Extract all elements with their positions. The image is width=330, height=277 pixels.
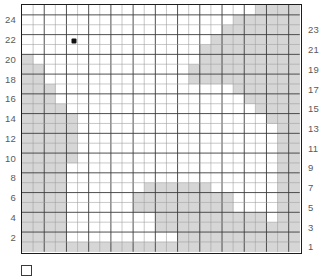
row-label-right-7: 7 <box>308 183 313 193</box>
row-label-right-19: 19 <box>308 65 319 75</box>
row-label-left-16: 16 <box>5 94 16 104</box>
row-labels-left-axis: 24222018161412108642 <box>0 4 19 254</box>
row-labels-right-axis: 2321191715131197531 <box>303 4 330 254</box>
row-label-left-12: 12 <box>5 134 16 144</box>
row-label-right-21: 21 <box>308 45 319 55</box>
row-label-right-3: 3 <box>308 223 313 233</box>
row-label-right-9: 9 <box>308 163 313 173</box>
chart-marker-dot <box>71 39 76 44</box>
pattern-grid[interactable] <box>22 5 301 253</box>
pattern-grid-container[interactable] <box>21 4 302 254</box>
row-label-left-6: 6 <box>11 193 16 203</box>
row-label-left-24: 24 <box>5 15 16 25</box>
row-label-right-15: 15 <box>308 104 319 114</box>
row-label-right-13: 13 <box>308 124 319 134</box>
row-label-right-17: 17 <box>308 85 319 95</box>
legend-swatch-empty <box>21 265 32 276</box>
row-label-right-23: 23 <box>308 25 319 35</box>
row-label-right-1: 1 <box>308 242 313 252</box>
row-label-left-20: 20 <box>5 55 16 65</box>
row-label-left-4: 4 <box>11 213 16 223</box>
legend <box>21 264 39 277</box>
row-label-left-2: 2 <box>11 233 16 243</box>
row-label-left-22: 22 <box>5 35 16 45</box>
row-label-left-8: 8 <box>11 173 16 183</box>
row-label-right-5: 5 <box>308 203 313 213</box>
row-label-left-14: 14 <box>5 114 16 124</box>
row-label-left-10: 10 <box>5 154 16 164</box>
pattern-chart: 24222018161412108642 2321191715131197531 <box>0 0 330 277</box>
row-label-left-18: 18 <box>5 75 16 85</box>
row-label-right-11: 11 <box>308 144 318 154</box>
